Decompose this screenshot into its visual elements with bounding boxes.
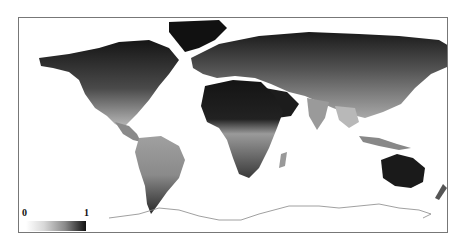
legend-max-label: 1: [84, 207, 89, 218]
south-america-region: [135, 136, 185, 214]
legend-gradient-bar: [26, 221, 86, 231]
antarctica-coastline: [109, 204, 431, 220]
indonesia-region: [359, 136, 411, 150]
central-america-region: [115, 122, 141, 142]
madagascar-region: [279, 152, 287, 168]
north-america-region: [39, 40, 179, 128]
australia-region: [381, 154, 425, 188]
legend-min-label: 0: [22, 207, 27, 218]
india-region: [307, 98, 329, 130]
africa-region: [201, 80, 283, 178]
new-zealand-region: [435, 184, 447, 200]
